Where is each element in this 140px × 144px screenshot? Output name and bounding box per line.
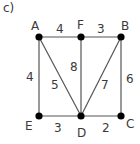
node-label-D: D xyxy=(77,126,86,140)
edge-BD xyxy=(81,37,121,116)
edge-weight-AF: 4 xyxy=(56,22,64,36)
node-A xyxy=(35,33,42,40)
node-B xyxy=(117,33,124,40)
edge-weight-AE: 4 xyxy=(26,70,34,84)
edge-weight-FB: 3 xyxy=(97,22,105,36)
node-E xyxy=(35,112,42,119)
nodes xyxy=(35,33,124,119)
edge-weight-AD: 5 xyxy=(51,78,59,92)
node-F xyxy=(77,33,84,40)
node-label-F: F xyxy=(77,18,84,32)
edge-weight-DC: 2 xyxy=(102,121,110,135)
node-label-A: A xyxy=(31,19,40,33)
weighted-graph-diagram: c) 434587632 AFBEDC xyxy=(0,0,140,144)
edges xyxy=(39,37,121,116)
node-label-B: B xyxy=(121,19,129,33)
node-label-C: C xyxy=(126,117,134,131)
edge-weight-BC: 6 xyxy=(126,72,134,86)
node-label-E: E xyxy=(25,119,33,133)
edge-weight-FD: 8 xyxy=(70,60,78,74)
node-D xyxy=(77,112,84,119)
edge-weight-BD: 7 xyxy=(101,78,109,92)
edge-weight-ED: 3 xyxy=(54,121,62,135)
edge-AD xyxy=(39,37,81,116)
part-label: c) xyxy=(3,1,14,15)
node-C xyxy=(117,112,124,119)
